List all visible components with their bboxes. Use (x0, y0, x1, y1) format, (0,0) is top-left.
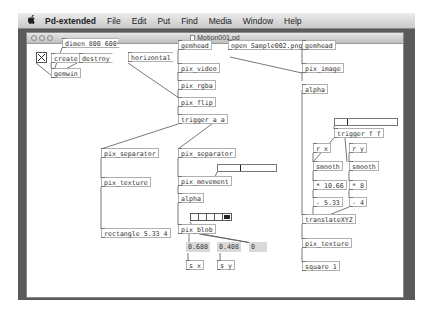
apple-menu-icon[interactable] (26, 15, 37, 27)
numbox-blob-x[interactable]: 0.680 (186, 242, 210, 252)
msg-destroy[interactable]: destroy (79, 53, 113, 63)
numbox-blob-y[interactable]: 0.408 (217, 242, 241, 252)
patch-wires (27, 44, 405, 299)
obj-smooth-x[interactable]: smooth (313, 161, 343, 171)
obj-pix-movement[interactable]: pix_movement (178, 176, 232, 186)
obj-send-y[interactable]: s y (217, 260, 235, 270)
menu-put[interactable]: Put (157, 16, 170, 26)
obj-pix-separator-2[interactable]: pix_separator (178, 148, 236, 158)
obj-receive-x[interactable]: r x (313, 143, 331, 153)
obj-trigger-ff[interactable]: trigger f f (334, 128, 384, 138)
obj-trigger-aa[interactable]: trigger a a (178, 114, 228, 124)
obj-receive-y[interactable]: r y (349, 143, 367, 153)
obj-pix-texture-2[interactable]: pix_texture (302, 238, 352, 248)
radio-cell-4[interactable] (223, 214, 231, 220)
obj-gemhead-1[interactable]: gemhead (178, 40, 212, 50)
toggle-gemwin[interactable] (36, 52, 47, 63)
obj-pix-blob[interactable]: pix_blob (178, 224, 216, 234)
menu-file[interactable]: File (107, 16, 121, 26)
obj-send-x[interactable]: s x (186, 260, 204, 270)
numbox-blob-size[interactable]: 0 (249, 242, 267, 252)
radio-cell-2[interactable] (207, 214, 215, 220)
msg-create[interactable]: create (51, 53, 81, 63)
menu-bar: Pd-extended File Edit Put Find Media Win… (18, 13, 415, 29)
radio-cell-0[interactable] (191, 214, 199, 220)
obj-multiply-y[interactable]: * 8 (349, 180, 367, 190)
menu-edit[interactable]: Edit (132, 16, 147, 26)
obj-alpha-2[interactable]: alpha (302, 84, 328, 94)
radio-cell-1[interactable] (199, 214, 207, 220)
slider-knob[interactable] (240, 165, 241, 171)
menu-media[interactable]: Media (209, 16, 232, 26)
msg-open-image[interactable]: open Sample002.png (228, 40, 305, 50)
obj-pix-separator-1[interactable]: pix_separator (101, 148, 159, 158)
obj-alpha-1[interactable]: alpha (178, 193, 204, 203)
obj-gemhead-2[interactable]: gemhead (302, 40, 336, 50)
obj-square[interactable]: square 1 (302, 261, 340, 271)
menu-window[interactable]: Window (243, 16, 273, 26)
menu-app-name[interactable]: Pd-extended (45, 16, 96, 26)
obj-gemwin[interactable]: gemwin (51, 68, 81, 78)
obj-pix-rgba[interactable]: pix_rgba (178, 80, 216, 90)
menu-help[interactable]: Help (284, 16, 301, 26)
slider-movement-threshold[interactable] (217, 164, 277, 172)
obj-pix-flip[interactable]: pix_flip (178, 97, 216, 107)
obj-subtract-x[interactable]: - 5.33 (313, 197, 343, 207)
slider-trigger[interactable] (334, 118, 398, 126)
obj-pix-image[interactable]: pix_image (302, 63, 344, 73)
obj-pix-video[interactable]: pix_video (178, 63, 220, 73)
obj-subtract-y[interactable]: - 4 (349, 197, 367, 207)
obj-pix-texture-1[interactable]: pix_texture (101, 177, 151, 187)
msg-dimen[interactable]: dimen 800 600 (62, 38, 120, 48)
patch-canvas[interactable]: dimen 800 600 create destroy gemwin hori… (27, 44, 403, 297)
msg-horizontal[interactable]: horizontal (128, 52, 174, 62)
radio-cell-3[interactable] (215, 214, 223, 220)
obj-smooth-y[interactable]: smooth (349, 161, 379, 171)
obj-multiply-x[interactable]: * 10.66 (313, 180, 347, 190)
obj-rectangle[interactable]: rectangle 5.33 4 (101, 228, 171, 238)
radio-blob-channel[interactable] (190, 213, 232, 221)
slider-knob[interactable] (347, 119, 348, 125)
patch-window: Motion001.pd (26, 32, 404, 298)
menu-find[interactable]: Find (181, 16, 198, 26)
obj-translateXYZ[interactable]: translateXYZ (302, 214, 356, 224)
